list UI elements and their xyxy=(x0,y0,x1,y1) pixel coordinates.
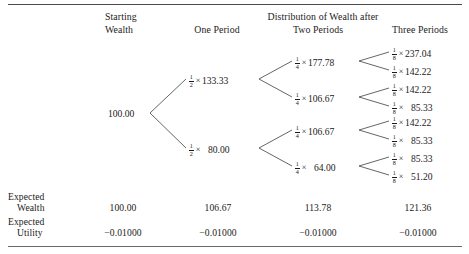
fraction-one-eighth: 1 8 xyxy=(392,83,397,98)
multiply-sign: × xyxy=(196,145,201,155)
expected-wealth-starting: 100.00 xyxy=(110,202,137,213)
tree-node-one-period-2: 1 2 × 80.00 xyxy=(189,143,230,158)
tree-node-three-periods-6: 1 8 × 85.33 xyxy=(392,134,433,149)
fraction-one-quarter: 1 4 xyxy=(295,125,300,140)
node-value: 64.00 xyxy=(308,163,336,173)
row-label-expected-utility-line1: Expected xyxy=(8,216,45,227)
multiply-sign: × xyxy=(399,103,404,113)
multiply-sign: × xyxy=(399,154,404,164)
fraction-one-quarter: 1 4 xyxy=(295,56,300,71)
node-value: 237.04 xyxy=(405,49,431,59)
fraction-one-half: 1 2 xyxy=(189,143,194,158)
multiply-sign: × xyxy=(302,94,307,104)
fraction-one-eighth: 1 8 xyxy=(392,134,397,149)
node-value: 80.00 xyxy=(202,145,230,155)
node-value: 106.67 xyxy=(308,127,334,137)
fraction-one-eighth: 1 8 xyxy=(392,116,397,131)
node-value: 85.33 xyxy=(405,154,433,164)
multiply-sign: × xyxy=(196,76,201,86)
node-value: 106.67 xyxy=(308,94,334,104)
expected-wealth-two-periods: 113.78 xyxy=(305,202,332,213)
multiply-sign: × xyxy=(399,136,404,146)
node-value: 177.78 xyxy=(308,58,334,68)
tree-node-two-periods-2: 1 4 × 106.67 xyxy=(295,92,334,107)
node-value: 142.22 xyxy=(405,85,431,95)
node-value: 142.22 xyxy=(405,118,431,128)
root-node-value: 100.00 xyxy=(108,108,134,119)
tree-node-two-periods-3: 1 4 × 106.67 xyxy=(295,125,334,140)
node-value: 85.33 xyxy=(405,103,433,113)
fraction-one-quarter: 1 4 xyxy=(295,92,300,107)
tree-node-three-periods-4: 1 8 × 85.33 xyxy=(392,101,433,116)
multiply-sign: × xyxy=(302,163,307,173)
fraction-one-half: 1 2 xyxy=(189,74,194,89)
multiply-sign: × xyxy=(399,85,404,95)
expected-wealth-one-period: 106.67 xyxy=(205,202,232,213)
multiply-sign: × xyxy=(399,67,404,77)
fraction-one-eighth: 1 8 xyxy=(392,65,397,80)
fraction-one-eighth: 1 8 xyxy=(392,170,397,185)
fraction-one-eighth: 1 8 xyxy=(392,47,397,62)
multiply-sign: × xyxy=(399,118,404,128)
tree-node-three-periods-2: 1 8 × 142.22 xyxy=(392,65,431,80)
tree-node-one-period-1: 1 2 × 133.33 xyxy=(189,74,228,89)
node-value: 142.22 xyxy=(405,67,431,77)
tree-node-three-periods-7: 1 8 × 85.33 xyxy=(392,152,433,167)
expected-utility-one-period: −0.01000 xyxy=(199,227,236,238)
table-figure: Starting Wealth Distribution of Wealth a… xyxy=(0,0,469,254)
row-label-expected-utility-line2: Utility xyxy=(17,227,43,238)
multiply-sign: × xyxy=(302,127,307,137)
multiply-sign: × xyxy=(399,172,404,182)
tree-node-three-periods-1: 1 8 × 237.04 xyxy=(392,47,431,62)
expected-utility-starting: −0.01000 xyxy=(104,227,141,238)
row-label-expected-wealth-line2: Wealth xyxy=(17,202,45,213)
fraction-one-quarter: 1 4 xyxy=(295,161,300,176)
fraction-one-eighth: 1 8 xyxy=(392,101,397,116)
expected-utility-three-periods: −0.01000 xyxy=(399,227,436,238)
fraction-one-eighth: 1 8 xyxy=(392,152,397,167)
tree-node-three-periods-5: 1 8 × 142.22 xyxy=(392,116,431,131)
multiply-sign: × xyxy=(399,49,404,59)
multiply-sign: × xyxy=(302,58,307,68)
expected-wealth-three-periods: 121.36 xyxy=(405,202,432,213)
tree-node-two-periods-1: 1 4 × 177.78 xyxy=(295,56,334,71)
tree-node-three-periods-3: 1 8 × 142.22 xyxy=(392,83,431,98)
row-label-expected-wealth-line1: Expected xyxy=(8,191,45,202)
tree-node-two-periods-4: 1 4 × 64.00 xyxy=(295,161,336,176)
tree-node-three-periods-8: 1 8 × 51.20 xyxy=(392,170,433,185)
node-value: 85.33 xyxy=(405,136,433,146)
node-value: 133.33 xyxy=(202,76,228,86)
node-value: 51.20 xyxy=(405,172,433,182)
expected-utility-two-periods: −0.01000 xyxy=(299,227,336,238)
